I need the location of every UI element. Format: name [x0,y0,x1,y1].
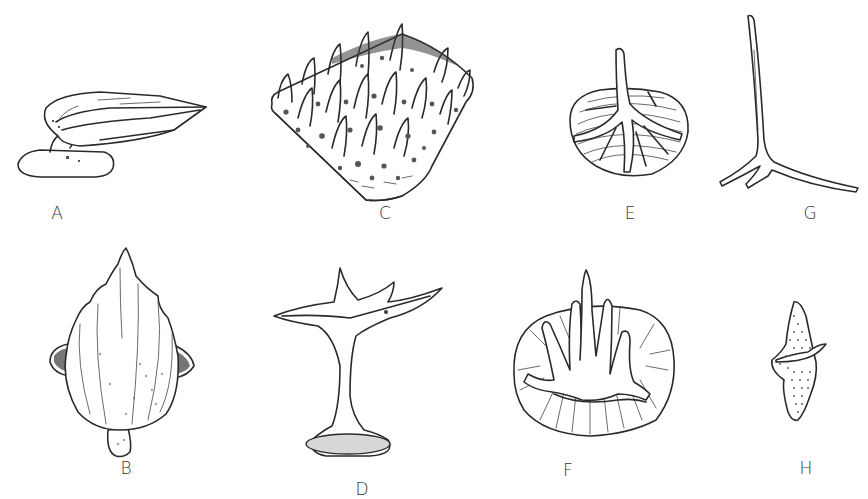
panel-d: D [270,266,450,484]
panel-c-label: C [379,203,391,223]
scale-a-drawing [0,0,230,230]
panel-f: F [500,270,680,484]
spicule-g-drawing [718,10,868,230]
panel-h-label: H [800,458,813,478]
panel-b: B [40,244,210,484]
scale-c-drawing [262,18,482,228]
panel-c: C [262,18,482,228]
panel-d-label: D [355,479,368,499]
panel-e-label: E [625,203,636,223]
scale-f-drawing [500,270,680,484]
panel-a: A [0,0,230,230]
panel-g-label: G [803,203,816,223]
panel-f-label: F [563,460,573,480]
scale-b-drawing [40,244,210,484]
panel-e: E [560,48,700,228]
scale-h-drawing [764,296,844,484]
panel-a-label: A [51,203,63,223]
denticle-d-drawing [270,266,450,484]
panel-b-label: B [120,458,131,478]
scale-e-drawing [560,48,700,228]
panel-g: G [718,10,868,230]
panel-h: H [764,296,844,484]
